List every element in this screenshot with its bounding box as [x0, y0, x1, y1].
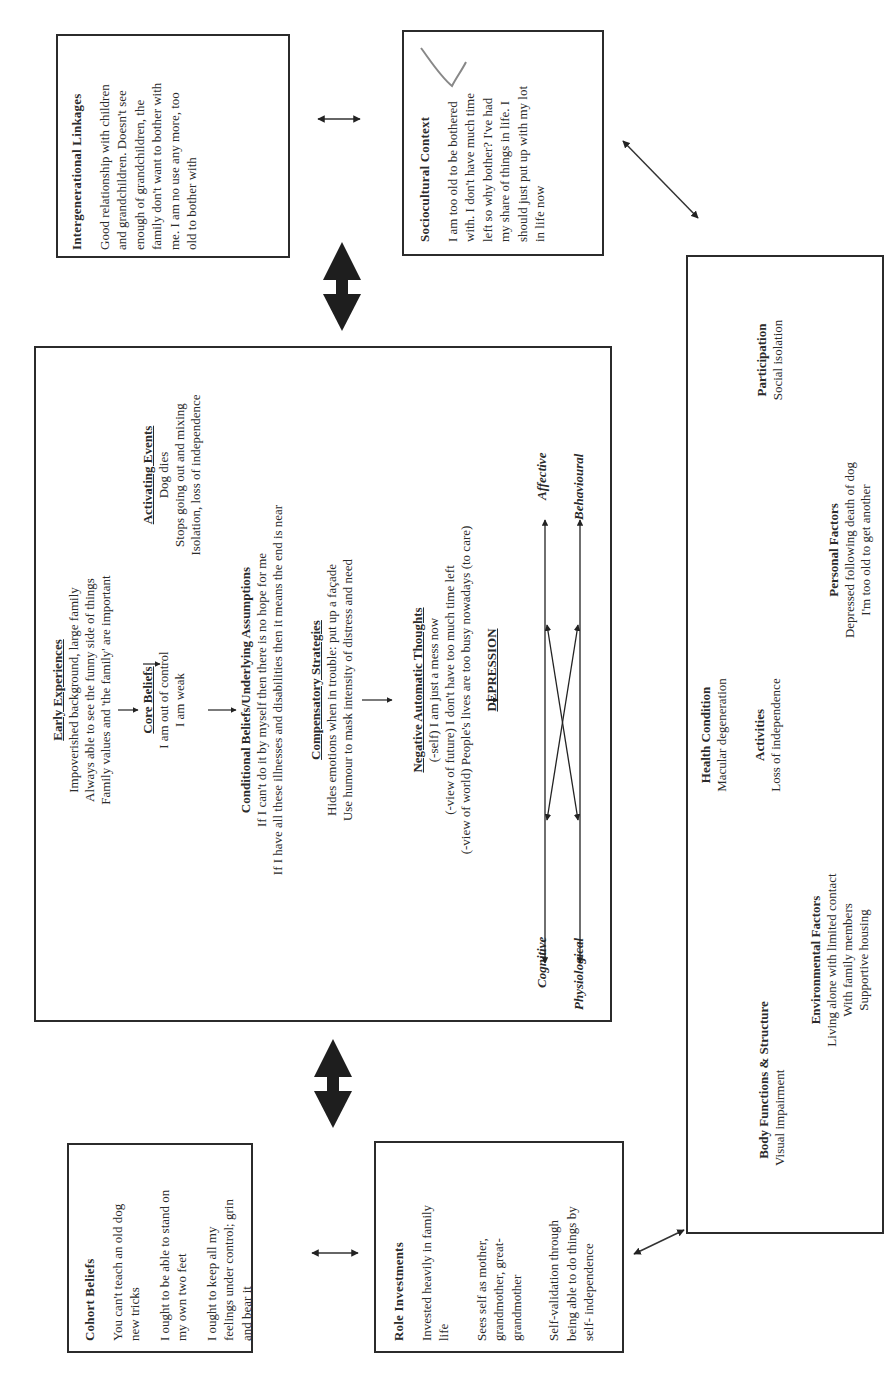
- big-double-arrow-top-icon: [323, 242, 361, 331]
- diagonal-double-arrow-top-icon: [623, 141, 698, 218]
- connector-arrows-layer: [0, 0, 896, 1378]
- diagonal-double-arrow-bottom-icon: [634, 1230, 684, 1254]
- big-double-arrow-bottom-icon: [314, 1039, 352, 1128]
